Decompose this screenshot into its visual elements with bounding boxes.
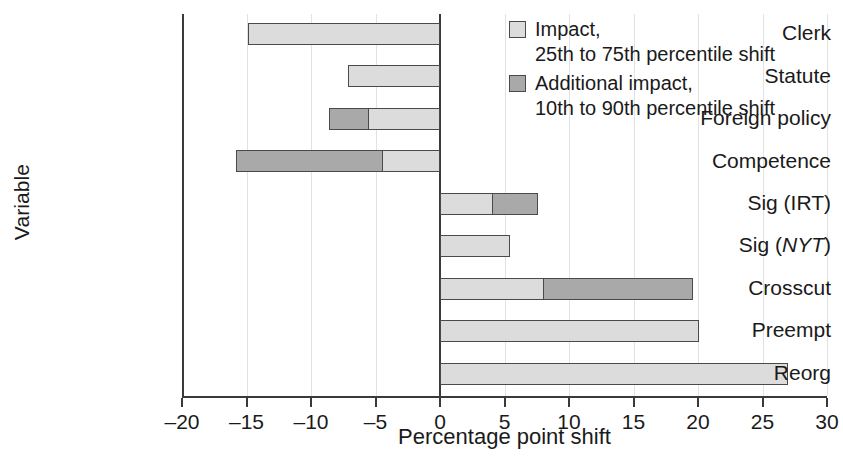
x-axis-tick — [633, 398, 635, 407]
y-axis-tick-label: Sig (NYT) — [571, 233, 831, 257]
legend-label: Additional impact, 10th to 90th percenti… — [535, 71, 775, 121]
x-axis-tick — [762, 398, 764, 407]
x-axis-tick — [375, 398, 377, 407]
bar-segment-impact — [440, 278, 544, 300]
y-axis-title: Variable — [10, 142, 34, 262]
x-axis-tick — [826, 398, 828, 407]
bar-segment-impact — [382, 150, 440, 172]
y-axis-tick-label: Competence — [571, 149, 831, 173]
y-axis-tick-label: Preempt — [571, 318, 831, 342]
bar-segment-impact — [248, 23, 440, 45]
y-axis-tick-label: Reorg — [571, 361, 831, 385]
bar-segment-impact — [440, 193, 493, 215]
legend-swatch-icon — [509, 75, 526, 92]
x-axis-tick — [310, 398, 312, 407]
x-axis-tick — [246, 398, 248, 407]
x-axis-tick — [439, 398, 441, 407]
y-axis-tick-label: Crosscut — [571, 276, 831, 300]
bar-segment-impact — [368, 108, 440, 130]
bar-segment-impact — [348, 65, 440, 87]
legend-entry: Additional impact, 10th to 90th percenti… — [509, 71, 775, 121]
legend-entry: Impact, 25th to 75th percentile shift — [509, 17, 775, 67]
legend-label: Impact, 25th to 75th percentile shift — [535, 17, 775, 67]
x-axis-tick — [568, 398, 570, 407]
x-axis-tick — [504, 398, 506, 407]
x-axis-tick — [181, 398, 183, 407]
bar-chart-figure: Variable –20–15–10–5051015202530 ClerkSt… — [0, 0, 843, 460]
x-axis-title: Percentage point shift — [182, 424, 827, 450]
bar-segment-impact — [440, 235, 510, 257]
x-axis-tick — [697, 398, 699, 407]
chart-legend: Impact, 25th to 75th percentile shiftAdd… — [509, 17, 775, 125]
y-axis-tick-label: Sig (IRT) — [571, 191, 831, 215]
legend-swatch-icon — [509, 21, 526, 38]
